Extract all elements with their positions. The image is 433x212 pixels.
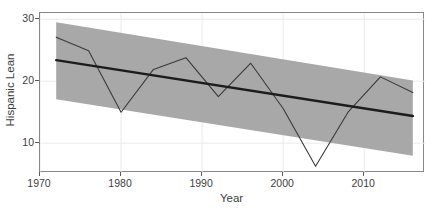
x-tick-label: 2010 bbox=[343, 177, 383, 189]
x-tick-label: 1970 bbox=[19, 177, 59, 189]
plot-panel bbox=[39, 12, 424, 172]
x-tick-mark bbox=[201, 172, 202, 176]
x-tick-label: 1990 bbox=[181, 177, 221, 189]
x-tick-mark bbox=[363, 172, 364, 176]
x-tick-mark bbox=[120, 172, 121, 176]
x-axis-tick-labels: 1970 1980 1990 2000 2010 bbox=[0, 177, 433, 191]
x-tick-label: 2000 bbox=[262, 177, 302, 189]
chart-figure: Hispanic Lean 30 20 10 bbox=[0, 0, 433, 212]
x-tick-label: 1980 bbox=[100, 177, 140, 189]
x-tick-mark bbox=[282, 172, 283, 176]
plot-area bbox=[40, 13, 425, 173]
figure-caption-strip bbox=[0, 203, 433, 212]
x-tick-mark bbox=[39, 172, 40, 176]
